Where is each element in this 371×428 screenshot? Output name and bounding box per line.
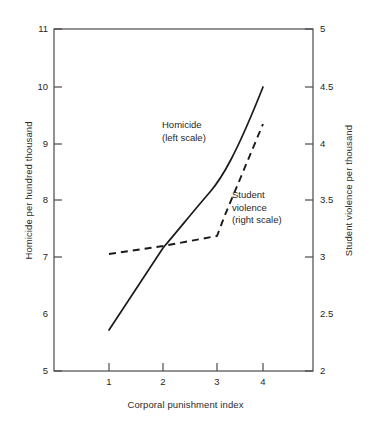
annotation-homicide-line-2: (left scale) <box>162 132 206 145</box>
y-right-tick-label-2p5: 2.5 <box>320 308 350 319</box>
annotation-homicide-line-1: Homicide <box>162 119 206 132</box>
annotation-student-violence: Student violence (right scale) <box>232 189 282 227</box>
annotation-homicide: Homicide (left scale) <box>162 119 206 144</box>
left-axis-ticks <box>54 29 62 371</box>
y-axis-title-left: Homicide per hundred thousand <box>23 91 34 291</box>
annotation-student-line-2: violence <box>232 202 282 215</box>
x-tick-label-2: 2 <box>151 376 175 387</box>
x-tick-label-4: 4 <box>251 376 275 387</box>
chart-figure: 11 10 9 8 7 6 5 5 4.5 4 3.5 3 2.5 2 1 2 … <box>0 0 371 428</box>
y-axis-title-right: Student violence per thousand <box>343 91 354 291</box>
x-tick-label-1: 1 <box>97 376 121 387</box>
y-right-tick-label-2: 2 <box>320 365 350 376</box>
y-left-tick-label-6: 6 <box>22 308 48 319</box>
y-right-tick-label-5: 5 <box>320 23 350 34</box>
annotation-student-line-1: Student <box>232 189 282 202</box>
x-axis-ticks <box>109 363 263 371</box>
annotation-student-line-3: (right scale) <box>232 214 282 227</box>
chart-canvas <box>0 0 371 428</box>
x-tick-label-3: 3 <box>205 376 229 387</box>
y-left-tick-label-5: 5 <box>22 365 48 376</box>
x-axis-title: Corporal punishment index <box>0 399 371 410</box>
y-left-tick-label-11: 11 <box>22 23 48 34</box>
right-axis-ticks <box>305 29 313 371</box>
